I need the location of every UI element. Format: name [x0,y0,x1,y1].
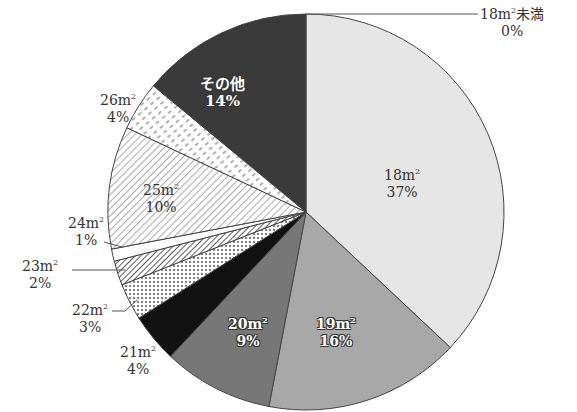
label-other: その他 14% [200,76,245,110]
label-22m2: 22m2 3% [72,302,108,336]
label-24m2: 24m2 1% [68,215,104,249]
label-26m2: 26m2 4% [100,92,136,126]
pie-chart [0,0,577,412]
label-23m2: 23m2 2% [22,258,58,292]
label-25m2: 25m2 10% [143,182,179,216]
label-19m2: 19m2 16% [316,316,356,350]
label-18m2-under: 18m2未満 0% [480,6,544,40]
label-18m2: 18m2 37% [384,167,420,201]
label-21m2: 21m2 4% [120,344,156,378]
label-20m2: 20m2 9% [228,316,268,350]
